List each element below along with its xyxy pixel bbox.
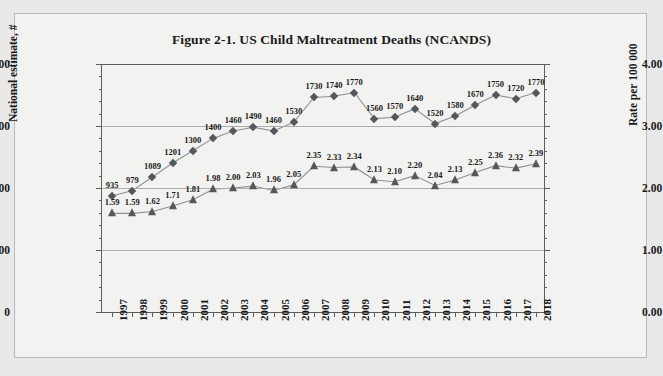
y-tick-minor-left: [99, 213, 102, 214]
x-tick-label: 2014: [460, 299, 472, 321]
data-point-marker: [148, 207, 156, 215]
data-point-label: 2.10: [387, 166, 402, 176]
data-point-marker: [431, 181, 439, 189]
y-tick-label-left: 1500: [0, 120, 10, 132]
x-tick-label: 2018: [541, 299, 553, 321]
y-tick-minor-right: [544, 76, 547, 77]
y-tick-minor-right: [544, 163, 547, 164]
x-tick: [516, 312, 517, 317]
data-point-label: 1460: [225, 115, 242, 125]
data-point-label: 1530: [285, 106, 302, 116]
data-point-label: 1560: [366, 103, 383, 113]
x-tick: [193, 312, 194, 317]
x-tick: [496, 312, 497, 317]
x-tick: [415, 312, 416, 317]
data-point-label: 2.00: [226, 172, 241, 182]
x-tick: [334, 312, 335, 317]
data-point-label: 2.13: [448, 164, 463, 174]
plot-area: 05001000150020000.001.002.003.004.001997…: [101, 64, 545, 312]
y-tick-label-left: 500: [0, 244, 10, 256]
x-tick: [475, 312, 476, 317]
chart-title: Figure 2-1. US Child Maltreatment Deaths…: [15, 32, 648, 48]
data-point-label: 1520: [427, 108, 444, 118]
data-point-label: 1770: [346, 77, 363, 87]
x-tick-label: 2007: [319, 299, 331, 321]
data-point-label: 2.04: [428, 170, 443, 180]
x-tick-label: 2000: [178, 299, 190, 321]
x-tick: [132, 312, 133, 317]
data-point-label: 2.25: [468, 157, 483, 167]
x-tick-label: 2004: [258, 299, 270, 321]
y-tick-label-right: 4.00: [642, 58, 663, 70]
y-tick-minor-right: [544, 275, 547, 276]
y-tick-minor-left: [99, 151, 102, 152]
data-point-label: 2.33: [327, 152, 342, 162]
y-tick-label-left: 0: [0, 306, 10, 318]
y-tick-label-right: 1.00: [642, 244, 663, 256]
data-point-label: 2.39: [528, 148, 543, 158]
y-tick-left: [96, 188, 102, 189]
y-tick-minor-right: [544, 89, 547, 90]
gridline: [102, 188, 546, 189]
data-point-marker: [310, 161, 318, 169]
data-point-marker: [270, 186, 278, 194]
x-tick: [152, 312, 153, 317]
data-point-label: 1720: [507, 83, 524, 93]
y-tick-minor-left: [99, 176, 102, 177]
data-point-marker: [350, 162, 358, 170]
y-tick-right: [544, 64, 550, 65]
data-point-marker: [209, 184, 217, 192]
data-point-label: 979: [126, 175, 139, 185]
series-line: [112, 93, 536, 197]
y-tick-minor-right: [544, 200, 547, 201]
y-tick-label-right: 0.00: [642, 306, 663, 318]
data-point-label: 1400: [205, 122, 222, 132]
x-tick-label: 1997: [117, 299, 129, 321]
x-tick-label: 2009: [359, 299, 371, 321]
data-point-label: 1.96: [266, 174, 281, 184]
y-axis-title-right: Rate per 100 000: [627, 43, 639, 126]
data-point-label: 1.62: [145, 196, 160, 206]
data-point-label: 2.05: [286, 169, 301, 179]
data-point-label: 2.13: [367, 164, 382, 174]
y-tick-minor-left: [99, 287, 102, 288]
y-tick-minor-left: [99, 225, 102, 226]
x-tick-label: 2013: [440, 299, 452, 321]
x-tick-label: 2008: [339, 299, 351, 321]
data-point-marker: [451, 175, 459, 183]
data-point-label: 1.71: [165, 190, 180, 200]
x-tick: [395, 312, 396, 317]
data-point-marker: [391, 177, 399, 185]
x-tick-label: 2016: [501, 299, 513, 321]
x-tick-label: 2005: [279, 299, 291, 321]
x-tick-label: 2002: [218, 299, 230, 321]
data-point-label: 1640: [406, 93, 423, 103]
y-axis-title-left: National estimate, #: [7, 25, 19, 122]
x-tick-label: 2006: [299, 299, 311, 321]
data-point-label: 1.98: [206, 173, 221, 183]
gridline: [102, 250, 546, 251]
y-tick-right: [544, 188, 550, 189]
y-tick-label-left: 2000: [0, 58, 10, 70]
y-tick-left: [96, 250, 102, 251]
x-tick: [112, 312, 113, 317]
x-tick: [455, 312, 456, 317]
data-point-label: 2.20: [407, 160, 422, 170]
data-point-label: 2.35: [306, 150, 321, 160]
y-tick-label-left: 1000: [0, 182, 10, 194]
data-point-marker: [411, 171, 419, 179]
data-point-label: 2.03: [246, 170, 261, 180]
x-tick-label: 1999: [157, 299, 169, 321]
y-tick-minor-left: [99, 238, 102, 239]
data-point-label: 1740: [326, 80, 343, 90]
y-tick-minor-right: [544, 176, 547, 177]
data-point-label: 2.32: [508, 152, 523, 162]
data-point-marker: [532, 159, 540, 167]
x-tick: [354, 312, 355, 317]
x-tick-label: 2001: [198, 299, 210, 321]
x-tick-label: 1998: [137, 299, 149, 321]
data-point-marker: [512, 163, 520, 171]
data-point-label: 1201: [164, 147, 181, 157]
x-tick-label: 2003: [238, 299, 250, 321]
data-point-label: 1.81: [185, 184, 200, 194]
